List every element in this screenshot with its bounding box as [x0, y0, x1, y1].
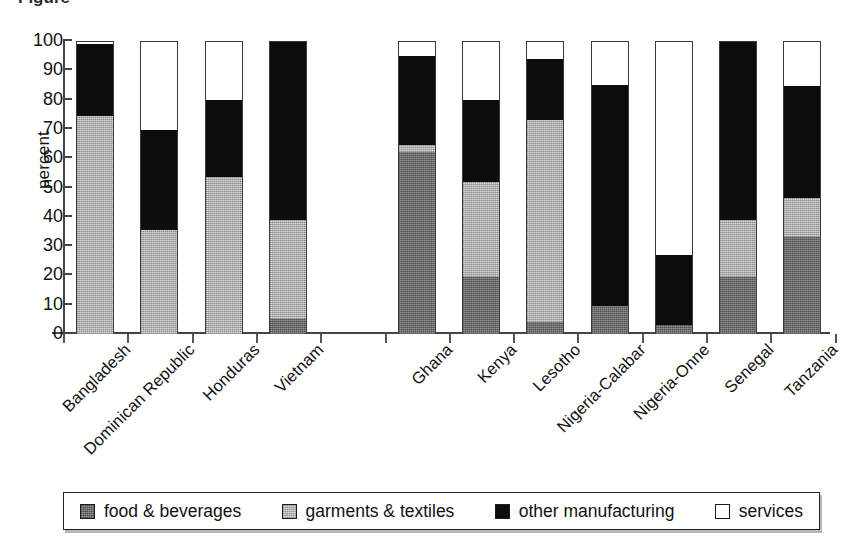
bar-segment-other — [76, 44, 114, 116]
bar-segment-services — [526, 41, 564, 59]
y-tick-label: 90 — [3, 60, 63, 78]
y-tick-mark — [63, 186, 72, 188]
y-tick-label: 10 — [3, 295, 63, 313]
legend-item: services — [715, 501, 803, 522]
x-tick-mark — [256, 334, 258, 343]
bar-segment-garments — [526, 120, 564, 322]
y-tick-label: 80 — [3, 90, 63, 108]
bar-stack[interactable] — [269, 40, 307, 334]
x-tick-mark — [835, 334, 837, 343]
bar-segment-other — [205, 100, 243, 178]
y-tick-label: 50 — [3, 178, 63, 196]
x-label-ghana: Ghana — [407, 340, 456, 389]
y-tick-label: 70 — [3, 119, 63, 137]
bar-segment-food — [526, 322, 564, 334]
bar-segment-food — [462, 277, 500, 334]
bar-stack[interactable] — [526, 40, 564, 334]
legend-swatch-garments-textiles — [282, 504, 297, 519]
bar-segment-garments — [783, 198, 821, 238]
y-tick-label: 0 — [3, 324, 63, 342]
y-tick-mark — [63, 127, 72, 129]
bar-stack[interactable] — [76, 40, 114, 334]
chart-legend: food & beverages garments & textiles oth… — [63, 492, 820, 530]
y-tick-label: 20 — [3, 265, 63, 283]
x-tick-mark — [513, 334, 515, 343]
bar-stack[interactable] — [205, 40, 243, 334]
bar-segment-food — [783, 237, 821, 334]
bar-segment-services — [140, 41, 178, 130]
legend-swatch-other-manufacturing — [495, 504, 510, 519]
legend-item: food & beverages — [80, 501, 241, 522]
x-tick-mark — [577, 334, 579, 343]
x-tick-mark — [192, 334, 194, 343]
y-tick-label: 30 — [3, 236, 63, 254]
bar-segment-other — [269, 41, 307, 220]
x-tick-mark — [449, 334, 451, 343]
bar-segment-garments — [269, 220, 307, 320]
bar-stack[interactable] — [783, 40, 821, 334]
bar-segment-garments — [140, 230, 178, 334]
bar-stack[interactable] — [462, 40, 500, 334]
bar-stack[interactable] — [140, 40, 178, 334]
y-tick-mark — [63, 156, 72, 158]
x-tick-mark — [385, 334, 387, 343]
y-tick-label: 40 — [3, 207, 63, 225]
bar-stack[interactable] — [591, 40, 629, 334]
bar-segment-services — [462, 41, 500, 100]
x-tick-mark — [770, 334, 772, 343]
bar-segment-food — [398, 152, 436, 334]
x-tick-mark — [127, 334, 129, 343]
y-tick-mark — [63, 303, 72, 305]
bar-segment-other — [462, 100, 500, 182]
x-label-senegal: Senegal — [721, 340, 778, 397]
x-label-vietnam: Vietnam — [271, 340, 328, 397]
x-label-lesotho: Lesotho — [529, 340, 584, 395]
bar-segment-other — [398, 56, 436, 145]
legend-item: other manufacturing — [495, 501, 675, 522]
y-tick-mark — [63, 215, 72, 217]
bar-segment-garments — [205, 177, 243, 334]
y-tick-mark — [63, 68, 72, 70]
bar-segment-other — [783, 86, 821, 197]
x-label-tanzania: Tanzania — [781, 340, 842, 401]
y-tick-mark — [63, 98, 72, 100]
bar-stack[interactable] — [719, 40, 757, 334]
x-label-honduras: Honduras — [199, 340, 264, 405]
chart-plot-area: percent 0102030405060708090100 Banglades… — [0, 0, 844, 340]
y-tick-label: 100 — [3, 31, 63, 49]
y-tick-mark — [63, 39, 72, 41]
bar-segment-other — [526, 59, 564, 121]
bar-segment-services — [655, 41, 693, 255]
x-tick-mark — [642, 334, 644, 343]
bar-segment-food — [269, 319, 307, 334]
x-label-kenya: Kenya — [473, 340, 520, 387]
legend-label-food-beverages: food & beverages — [104, 501, 241, 522]
bar-segment-other — [140, 130, 178, 230]
bar-segment-services — [783, 41, 821, 86]
y-tick-label: 60 — [3, 148, 63, 166]
bar-segment-other — [655, 255, 693, 325]
legend-swatch-services — [715, 504, 730, 519]
legend-label-garments-textiles: garments & textiles — [306, 501, 455, 522]
legend-item: garments & textiles — [282, 501, 455, 522]
legend-label-services: services — [739, 501, 803, 522]
bar-segment-garments — [76, 116, 114, 334]
bar-segment-services — [398, 41, 436, 56]
y-tick-mark — [63, 244, 72, 246]
legend-label-other-manufacturing: other manufacturing — [519, 501, 675, 522]
bar-stack[interactable] — [398, 40, 436, 334]
bar-segment-garments — [719, 220, 757, 277]
legend-swatch-food-beverages — [80, 504, 95, 519]
bar-segment-services — [591, 41, 629, 85]
bar-segment-other — [591, 85, 629, 306]
x-tick-mark — [706, 334, 708, 343]
bar-stack[interactable] — [655, 40, 693, 334]
bar-segment-food — [655, 325, 693, 334]
bar-segment-garments — [462, 182, 500, 277]
bar-segment-food — [591, 306, 629, 334]
bar-segment-other — [719, 42, 757, 219]
x-label-dominican-republic: Dominican Republic — [80, 340, 198, 458]
x-tick-mark — [320, 334, 322, 343]
bar-segment-services — [205, 41, 243, 100]
x-tick-mark — [63, 334, 65, 343]
